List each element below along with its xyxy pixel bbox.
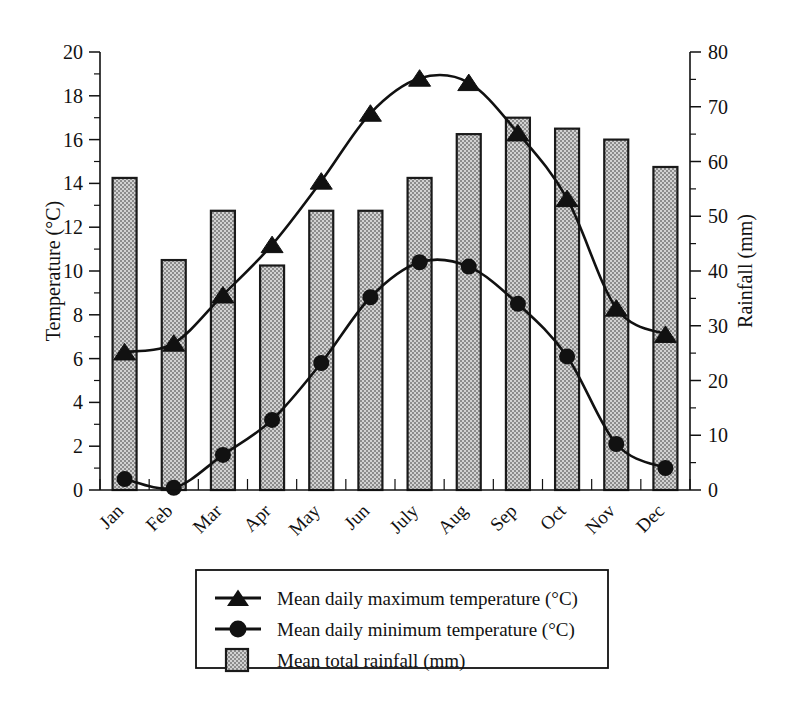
rainfall-bar	[358, 211, 382, 490]
left-axis-tick-label: 10	[63, 260, 83, 282]
left-axis-tick-label: 12	[63, 216, 83, 238]
rainfall-bar-rect	[358, 211, 382, 490]
rainfall-bar	[113, 178, 137, 490]
min-temperature-marker	[608, 436, 624, 452]
rainfall-bar-rect	[408, 178, 432, 490]
max-temperature-marker	[261, 236, 283, 253]
rainfall-bar-rect	[113, 178, 137, 490]
legend-circle-icon	[230, 621, 247, 638]
right-axis-tick-label: 20	[708, 370, 728, 392]
max-temperature-line	[125, 75, 666, 352]
climate-chart-figure: 02468101214161820 Temperature (°C) 01020…	[0, 0, 803, 714]
x-axis-month-label: Sep	[486, 500, 521, 535]
max-temperature-marker	[458, 74, 480, 91]
chart-canvas: 02468101214161820 Temperature (°C) 01020…	[0, 0, 803, 714]
right-axis-tick-label: 80	[708, 41, 728, 63]
left-axis-ticks: 02468101214161820	[63, 41, 100, 501]
x-axis-month-label: Feb	[142, 500, 177, 535]
x-axis-month-label: Apr	[239, 500, 275, 536]
min-temperature-series	[117, 254, 674, 496]
left-axis-tick-label: 2	[73, 435, 83, 457]
x-axis-month-label: Jun	[340, 500, 374, 534]
min-temperature-marker	[313, 355, 329, 371]
min-temperature-line	[125, 260, 666, 489]
min-temperature-marker	[559, 348, 575, 364]
min-temperature-marker	[166, 480, 182, 496]
rainfall-bar-rect	[260, 266, 284, 490]
min-temperature-marker	[510, 296, 526, 312]
x-axis-month-label: Aug	[434, 500, 472, 538]
legend-label: Mean daily maximum temperature (°C)	[277, 588, 578, 610]
min-temperature-marker	[215, 447, 231, 463]
legend: Mean daily maximum temperature (°C)Mean …	[196, 570, 608, 672]
legend-label: Mean total rainfall (mm)	[277, 650, 465, 672]
rainfall-bar-rect	[457, 134, 481, 490]
x-axis-month-label: July	[385, 500, 423, 538]
rainfall-bar-rect	[162, 260, 186, 490]
plot-area	[113, 70, 678, 496]
x-axis-month-label: May	[285, 500, 325, 540]
right-axis-title: Rainfall (mm)	[734, 214, 757, 328]
left-axis-tick-label: 18	[63, 85, 83, 107]
rainfall-bar	[408, 178, 432, 490]
right-axis-tick-label: 10	[708, 424, 728, 446]
right-axis-ticks: 01020304050607080	[690, 41, 728, 501]
rainfall-bars	[113, 118, 678, 490]
min-temperature-marker	[362, 289, 378, 305]
x-axis-month-label: Oct	[536, 499, 571, 534]
max-temperature-series	[114, 70, 677, 360]
right-axis-tick-label: 0	[708, 479, 718, 501]
left-axis-tick-label: 14	[63, 172, 83, 194]
left-axis-tick-label: 16	[63, 129, 83, 151]
max-temperature-marker	[409, 70, 431, 87]
x-axis-month-label: Mar	[189, 500, 227, 538]
min-temperature-marker	[117, 471, 133, 487]
x-axis-month-label: Dec	[632, 500, 668, 536]
rainfall-bar	[457, 134, 481, 490]
left-axis-tick-label: 0	[73, 479, 83, 501]
right-axis-tick-label: 40	[708, 260, 728, 282]
left-axis-tick-label: 8	[73, 304, 83, 326]
left-axis-tick-label: 20	[63, 41, 83, 63]
right-axis: 01020304050607080 Rainfall (mm)	[690, 41, 757, 501]
min-temperature-marker	[461, 259, 477, 275]
legend-rainfall-swatch-icon	[226, 649, 248, 671]
right-axis-tick-label: 60	[708, 151, 728, 173]
x-axis-month-labels: JanFebMarAprMayJunJulyAugSepOctNovDec	[95, 499, 669, 539]
rainfall-bar	[162, 260, 186, 490]
x-axis-month-label: Nov	[581, 500, 619, 538]
min-temperature-marker	[412, 254, 428, 270]
rainfall-bar	[260, 266, 284, 490]
left-axis-tick-label: 6	[73, 348, 83, 370]
legend-label: Mean daily minimum temperature (°C)	[277, 619, 575, 641]
left-axis: 02468101214161820 Temperature (°C)	[42, 41, 100, 501]
left-axis-title: Temperature (°C)	[42, 201, 65, 341]
x-axis-month-label: Jan	[95, 500, 128, 533]
left-axis-tick-label: 4	[73, 391, 83, 413]
min-temperature-marker	[264, 412, 280, 428]
right-axis-tick-label: 30	[708, 315, 728, 337]
max-temperature-marker	[310, 173, 332, 190]
right-axis-tick-label: 70	[708, 96, 728, 118]
min-temperature-marker	[657, 460, 673, 476]
right-axis-tick-label: 50	[708, 205, 728, 227]
